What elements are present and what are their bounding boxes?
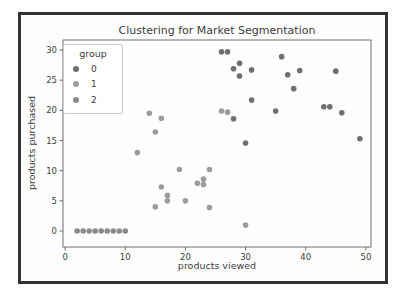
scatter-point-group-0: [243, 140, 249, 146]
scatter-point-group-1: [159, 115, 165, 121]
legend-entry-label: 0: [91, 64, 97, 74]
scatter-point-group-0: [231, 66, 237, 72]
scatter-point-group-0: [237, 73, 243, 79]
scatter-point-group-1: [165, 198, 171, 204]
scatter-point-group-1: [153, 204, 159, 210]
scatter-point-group-0: [231, 116, 237, 122]
y-tick-label: 5: [52, 196, 57, 206]
scatter-point-group-2: [98, 228, 104, 234]
scatter-point-group-0: [249, 67, 255, 73]
scatter-point-group-1: [153, 129, 159, 135]
scatter-point-group-1: [134, 150, 140, 156]
scatter-point-group-0: [249, 97, 255, 103]
scatter-plot-canvas: 01020304050051015202530: [0, 0, 405, 296]
scatter-point-group-1: [159, 184, 165, 190]
legend-entry-0: 0: [64, 61, 122, 77]
scatter-point-group-2: [80, 228, 86, 234]
scatter-point-group-2: [110, 228, 116, 234]
legend-entry-2: 2: [64, 92, 122, 108]
scatter-point-group-1: [147, 111, 153, 117]
scatter-point-group-0: [225, 49, 231, 55]
scatter-point-group-2: [86, 228, 92, 234]
scatter-point-group-0: [219, 49, 225, 55]
scatter-point-group-0: [339, 110, 345, 116]
scatter-point-group-0: [237, 60, 243, 66]
legend-entry-label: 2: [91, 95, 97, 105]
scatter-point-group-1: [243, 222, 249, 228]
scatter-point-group-0: [327, 104, 333, 110]
y-tick-label: 15: [46, 136, 57, 146]
legend-marker-icon: [73, 81, 79, 87]
x-axis-label: products viewed: [63, 260, 371, 271]
scatter-point-group-1: [165, 193, 171, 199]
scatter-point-group-2: [74, 228, 80, 234]
scatter-point-group-1: [201, 176, 207, 182]
legend-marker-icon: [73, 66, 79, 72]
scatter-point-group-2: [122, 228, 128, 234]
legend-marker-icon: [73, 97, 79, 103]
scatter-point-group-1: [219, 108, 225, 114]
legend-entries: 012: [64, 61, 122, 108]
legend-entry-1: 1: [64, 77, 122, 93]
y-tick-label: 0: [52, 226, 57, 236]
screenshot-page: 01020304050051015202530 Clustering for M…: [0, 0, 405, 296]
scatter-point-group-2: [92, 228, 98, 234]
scatter-point-group-0: [297, 68, 303, 74]
y-tick-label: 10: [46, 166, 57, 176]
scatter-point-group-1: [207, 167, 213, 173]
scatter-point-group-1: [177, 167, 183, 173]
scatter-point-group-2: [104, 228, 110, 234]
y-axis-label: products purchased: [26, 96, 37, 190]
scatter-point-group-0: [321, 104, 327, 110]
chart-title: Clustering for Market Segmentation: [63, 24, 371, 37]
scatter-point-group-1: [201, 182, 207, 188]
y-tick-label: 20: [46, 105, 57, 115]
scatter-point-group-2: [116, 228, 122, 234]
scatter-point-group-0: [273, 108, 279, 114]
scatter-point-group-0: [279, 54, 285, 60]
scatter-point-group-0: [333, 68, 339, 74]
scatter-point-group-1: [207, 205, 213, 211]
y-tick-label: 30: [46, 45, 57, 55]
legend-entry-label: 1: [91, 79, 97, 89]
scatter-point-group-0: [357, 136, 363, 142]
scatter-point-group-1: [225, 109, 231, 115]
scatter-point-group-0: [285, 72, 291, 78]
scatter-point-group-0: [291, 86, 297, 92]
legend-box: group 012: [63, 44, 123, 114]
scatter-point-group-1: [195, 181, 201, 187]
legend-title: group: [64, 48, 122, 59]
scatter-point-group-1: [183, 198, 189, 204]
y-tick-label: 25: [46, 75, 57, 85]
